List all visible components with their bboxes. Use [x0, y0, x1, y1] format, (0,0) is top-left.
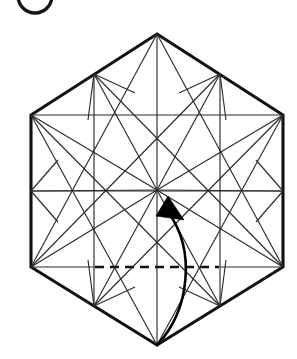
crease-pattern-canvas: [0, 0, 297, 359]
origami-diagram-root: [0, 0, 297, 359]
step-number-badge: [18, 0, 52, 13]
step-badge-circle-icon: [18, 0, 52, 13]
